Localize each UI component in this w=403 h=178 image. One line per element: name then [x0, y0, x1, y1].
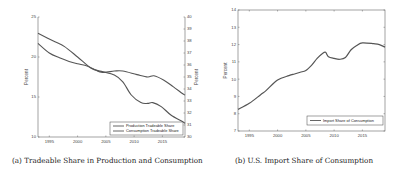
y-tick-label: 9 [234, 94, 237, 99]
y-right-tick-label: 31 [187, 122, 192, 127]
y-tick-label: 13 [231, 25, 236, 30]
y-axis-title: Percent [223, 62, 228, 79]
x-tick-label: 2010 [329, 133, 339, 138]
x-tick-label: 2015 [358, 133, 368, 138]
y-tick-label: 15 [31, 94, 36, 99]
x-tick-label: 2000 [73, 139, 83, 144]
y-right-tick-label: 35 [187, 74, 192, 79]
x-tick-label: 2010 [129, 139, 139, 144]
y-right-tick-label: 40 [187, 14, 192, 19]
y-right-tick-label: 36 [187, 62, 192, 67]
y-tick-label: 8 [234, 111, 237, 116]
y-right-tick-label: 30 [187, 134, 192, 139]
chart-panel-a: 1015202530313233343536373839401995200020… [0, 0, 210, 178]
y-tick-label: 14 [231, 7, 236, 12]
caption-b: (b) U.S. Import Share of Consumption [235, 156, 373, 165]
y-tick-label: 10 [31, 134, 36, 139]
caption-a: (a) Tradeable Share in Production and Co… [12, 156, 203, 165]
y-axis-title: Percent [24, 68, 29, 85]
y-right-tick-label: 37 [187, 50, 192, 55]
x-tick-label: 1995 [45, 139, 55, 144]
y-right-tick-label: 39 [187, 26, 192, 31]
series-line-0 [238, 43, 385, 110]
y-tick-label: 10 [231, 77, 236, 82]
legend: Production Tradeable ShareConsumption Tr… [110, 122, 183, 135]
tradeable-share-chart: 1015202530313233343536373839401995200020… [0, 0, 210, 150]
x-tick-label: 2000 [273, 133, 283, 138]
y-tick-label: 11 [232, 59, 237, 64]
chart-panel-b: 789101112131419952000200520102015Percent… [210, 0, 403, 178]
x-tick-label: 2005 [301, 133, 311, 138]
series-line-1 [38, 43, 185, 95]
x-tick-label: 2005 [101, 139, 111, 144]
y-tick-label: 20 [31, 54, 36, 59]
series-lines [238, 43, 385, 110]
legend: Import Share of Consumption [307, 116, 383, 125]
series-line-0 [38, 33, 185, 123]
series-lines [38, 33, 185, 123]
y-tick-label: 12 [231, 42, 236, 47]
y-tick-label: 7 [234, 128, 237, 133]
y-right-tick-label: 38 [187, 38, 192, 43]
y-right-tick-label: 32 [187, 110, 192, 115]
legend-label: Consumption Tradeable Share [126, 128, 179, 133]
import-share-chart: 789101112131419952000200520102015Percent… [210, 0, 403, 150]
y-tick-label: 25 [31, 14, 36, 19]
legend-label: Import Share of Consumption [323, 118, 374, 123]
y-right-axis-title: Percent [194, 68, 199, 85]
plot-box [238, 10, 385, 131]
y-right-tick-label: 33 [187, 98, 192, 103]
y-right-tick-label: 34 [187, 86, 192, 91]
x-tick-label: 2015 [158, 139, 168, 144]
x-tick-label: 1995 [245, 133, 255, 138]
